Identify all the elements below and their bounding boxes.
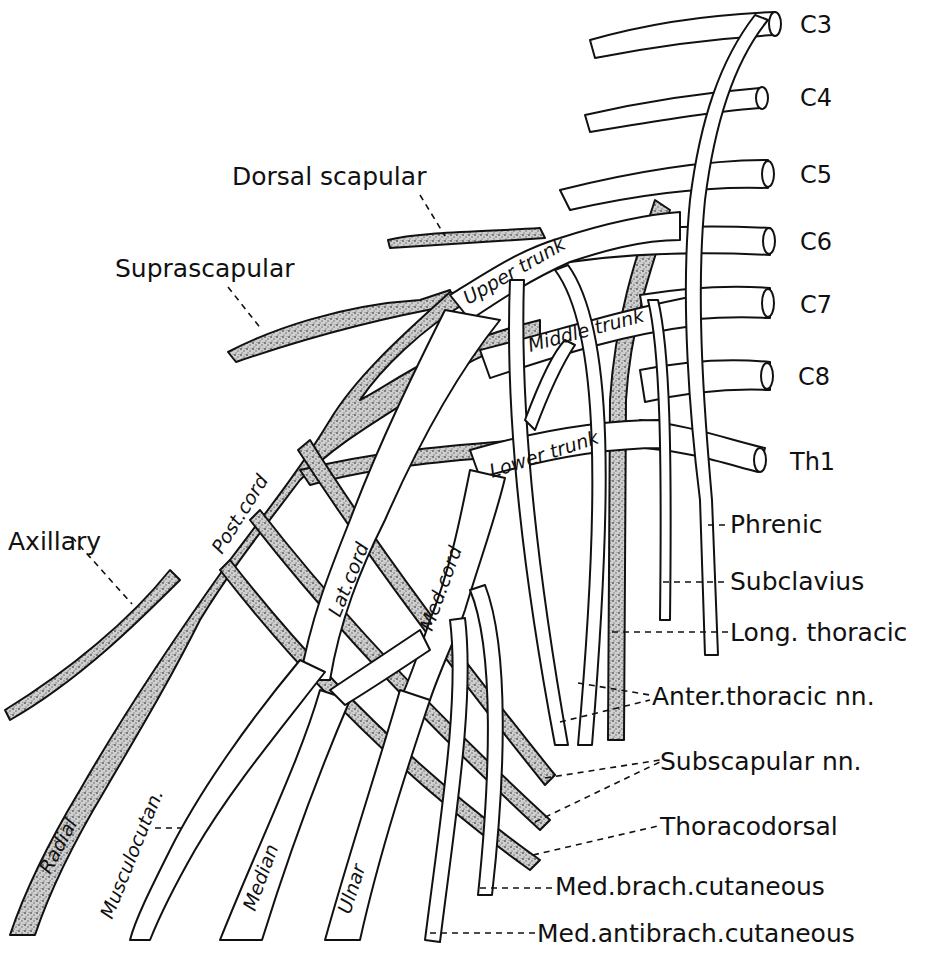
- subclavius-nerve: [648, 300, 671, 620]
- label-axillary: Axillary: [8, 527, 101, 556]
- label-phrenic: Phrenic: [730, 510, 823, 539]
- label-c6: C6: [800, 228, 832, 256]
- label-med-antibrach-cutaneous: Med.antibrach.cutaneous: [537, 919, 855, 948]
- label-long-thoracic: Long. thoracic: [730, 618, 907, 647]
- root-c4: [585, 88, 760, 132]
- label-med-brach-cutaneous: Med.brach.cutaneous: [555, 872, 825, 901]
- brachial-plexus-diagram: C3 C4 C5 C6 C7 C8 Th1 Upper trunk Middle…: [0, 0, 939, 953]
- label-th1: Th1: [789, 448, 835, 476]
- anterior-nerves: [130, 12, 775, 942]
- label-anterior-thoracic: Anter.thoracic nn.: [652, 682, 875, 711]
- dorsal-scapular-nerve: [388, 228, 545, 248]
- inline-labels: Upper trunk Middle trunk Lower trunk Pos…: [34, 232, 647, 922]
- root-labels: C3 C4 C5 C6 C7 C8 Th1: [789, 11, 835, 476]
- label-subscapular: Subscapular nn.: [660, 747, 862, 776]
- label-subclavius: Subclavius: [730, 567, 864, 596]
- label-dorsal-scapular: Dorsal scapular: [232, 162, 427, 191]
- root-c5: [560, 160, 768, 210]
- label-c5: C5: [800, 161, 832, 189]
- label-c4: C4: [800, 84, 832, 112]
- label-c7: C7: [800, 291, 832, 319]
- label-c3: C3: [800, 11, 832, 39]
- label-thoracodorsal: Thoracodorsal: [659, 812, 838, 841]
- label-suprascapular: Suprascapular: [115, 254, 295, 283]
- label-c8: C8: [798, 363, 830, 391]
- med-brach-cutaneous-nerve: [470, 585, 503, 895]
